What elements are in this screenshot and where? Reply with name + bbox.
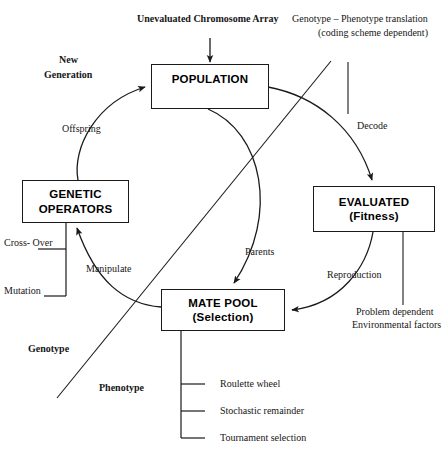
label-stochastic-remainder: Stochastic remainder (220, 404, 304, 417)
genotype-phenotype-divider-line (57, 61, 331, 398)
label-environmental-factors-line2: Environmental factors (352, 318, 441, 331)
node-mate-pool[interactable]: MATE POOL (Selection) (161, 289, 285, 331)
label-genotype-phenotype-translation-line1: Genotype – Phenotype translation (292, 12, 428, 25)
label-genotype-phenotype-translation-line2: (coding scheme dependent) (318, 26, 428, 39)
node-genetic-operators-label-line1: GENETIC (49, 187, 102, 201)
label-cross-over: Cross- Over (4, 236, 53, 249)
node-mate-pool-label-line1: MATE POOL (188, 296, 257, 310)
label-new-generation-line1: New (59, 53, 78, 66)
node-evaluated[interactable]: EVALUATED (Fitness) (313, 186, 435, 232)
label-tournament-selection: Tournament selection (220, 431, 306, 444)
node-population-label: POPULATION (172, 72, 249, 86)
genetic-algorithm-diagram: POPULATION GENETIC OPERATORS EVALUATED (… (0, 0, 445, 456)
decode-arrow (268, 87, 372, 180)
label-roulette-wheel: Roulette wheel (220, 377, 280, 390)
label-phenotype: Phenotype (99, 381, 144, 394)
label-reproduction: Reproduction (327, 268, 381, 281)
label-mutation: Mutation (4, 284, 41, 297)
label-decode: Decode (357, 119, 388, 132)
node-evaluated-label-line1: EVALUATED (339, 195, 409, 209)
label-unevaluated-chromosome-array: Unevaluated Chromosome Array (137, 12, 278, 25)
node-evaluated-label-line2: (Fitness) (349, 209, 399, 223)
node-population[interactable]: POPULATION (151, 64, 269, 109)
node-genetic-operators-label-line2: OPERATORS (39, 202, 113, 216)
node-genetic-operators[interactable]: GENETIC OPERATORS (22, 180, 129, 223)
label-problem-dependent-line1: Problem dependent (356, 305, 433, 318)
label-manipulate: Manipulate (86, 262, 132, 275)
label-genotype: Genotype (28, 342, 69, 355)
label-new-generation-line2: Generation (44, 68, 92, 81)
node-mate-pool-label-line2: (Selection) (193, 310, 254, 324)
label-offspring: Offspring (62, 122, 101, 135)
label-parents: Parents (245, 245, 274, 258)
